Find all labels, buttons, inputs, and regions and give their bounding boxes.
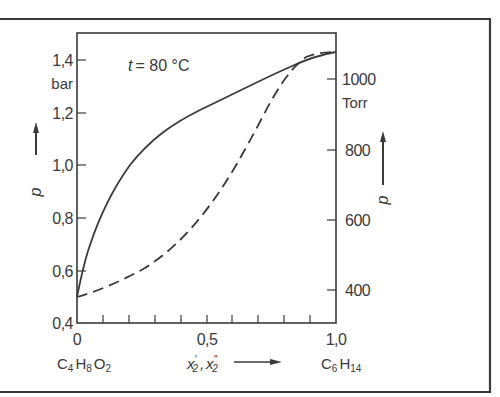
y2-axis-labels: 1000 Torr 800 600 400: [342, 71, 376, 299]
y2-tick-label: 400: [345, 282, 371, 299]
arrow-right-icon: [270, 359, 282, 365]
arrow-up-icon: [33, 122, 39, 133]
plot-area: [77, 33, 336, 323]
x-tick-label: 0,5: [197, 331, 218, 348]
vapor-liquid-equilibrium-chart: t= 80 °C 1,4 bar 1,2 1,0 0,8 0,6 0,4 p 1…: [0, 0, 500, 397]
y2-tick-label: 600: [345, 212, 371, 229]
x-axis-title: x′2,x″2: [186, 354, 282, 374]
y-axis-title: p: [27, 122, 44, 197]
y-tick-label: 1,0: [52, 157, 73, 174]
y2-unit-label: Torr: [342, 94, 368, 111]
y-symbol: p: [27, 187, 44, 197]
boiling-curve-solid: [77, 52, 336, 297]
dew-curve-dashed: [77, 52, 336, 297]
y-tick-label: 1,2: [52, 105, 73, 122]
y-axis-labels: 1,4 bar 1,2 1,0 0,8 0,6 0,4: [51, 52, 73, 332]
x-tick-label: 0: [73, 331, 82, 348]
y2-axis-title: p: [374, 131, 391, 205]
x-axis-labels: 0 0,5 1,0: [73, 331, 347, 348]
y-tick-label: 0,4: [52, 315, 73, 332]
y2-tick-label: 1000: [342, 71, 376, 88]
y-tick-label: 0,8: [52, 210, 73, 227]
component-left-label: C4H8O2: [57, 355, 111, 374]
component-right-label: C6H14: [321, 355, 362, 374]
y-tick-label: 1,4: [52, 52, 73, 69]
x-symbol: x′2,x″2: [186, 354, 218, 374]
arrow-up-icon: [380, 131, 386, 142]
temperature-annotation: t= 80 °C: [128, 57, 189, 74]
y-axis-ticks: [77, 60, 86, 271]
y-unit-label: bar: [51, 75, 73, 92]
x-axis-ticks: [103, 315, 310, 323]
y2-symbol: p: [374, 195, 391, 205]
y-tick-label: 0,6: [52, 263, 73, 280]
y2-axis-ticks: [327, 79, 336, 290]
y2-tick-label: 800: [345, 142, 371, 159]
x-tick-label: 1,0: [326, 331, 347, 348]
